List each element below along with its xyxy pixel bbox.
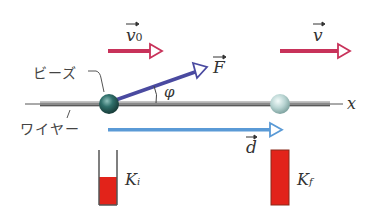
v0-main: v bbox=[126, 25, 136, 45]
ki-subscript: i bbox=[137, 176, 140, 187]
initial-velocity-label: v0 bbox=[126, 25, 143, 45]
kf-main: K bbox=[297, 170, 309, 189]
initial-velocity-arrow bbox=[108, 44, 162, 58]
bead-leader-line bbox=[88, 71, 104, 92]
kf-subscript: f bbox=[309, 176, 313, 187]
final-velocity-arrow bbox=[280, 44, 350, 58]
wire-leader-line bbox=[67, 110, 70, 118]
angle-label: φ bbox=[164, 83, 175, 101]
bead-initial bbox=[99, 94, 119, 114]
wire bbox=[25, 102, 343, 107]
initial-kinetic-energy-label: Ki bbox=[125, 170, 140, 189]
bead-label: ビーズ bbox=[33, 62, 77, 82]
final-kinetic-energy-label: Kf bbox=[297, 170, 313, 189]
work-energy-diagram: v0 v F φ x d Ki Kf ビーズ ワイヤー bbox=[0, 0, 372, 219]
vector-arrow-marks bbox=[126, 22, 325, 139]
bead-final bbox=[270, 94, 290, 114]
wire-label: ワイヤー bbox=[20, 118, 80, 138]
x-axis-label: x bbox=[347, 94, 356, 113]
final-velocity-label: v bbox=[313, 25, 323, 45]
angle-arc bbox=[154, 86, 157, 103]
force-label: F bbox=[213, 57, 225, 77]
displacement-label: d bbox=[246, 137, 257, 157]
ki-main: K bbox=[125, 170, 137, 189]
initial-kinetic-energy-bar bbox=[99, 150, 117, 205]
displacement-arrow bbox=[108, 123, 282, 137]
force-arrow bbox=[110, 63, 207, 102]
v0-subscript: 0 bbox=[136, 31, 143, 44]
final-kinetic-energy-bar bbox=[271, 150, 289, 205]
